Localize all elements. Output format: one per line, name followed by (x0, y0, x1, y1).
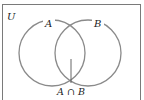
set-a-label: A (44, 18, 52, 29)
set-b-label: B (93, 18, 101, 29)
universe-label: U (7, 11, 16, 22)
intersection-label: A ∩ B (56, 86, 85, 97)
venn-diagram: U A B A ∩ B (0, 0, 144, 100)
